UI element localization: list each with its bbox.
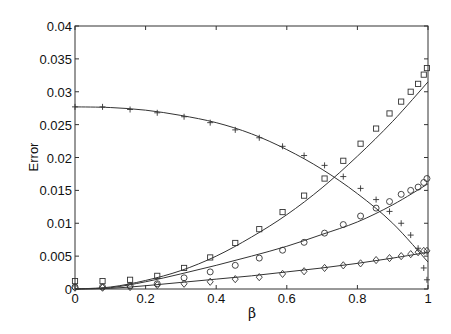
plot-area [75, 26, 428, 289]
y-tick-label: 0.005 [39, 249, 72, 264]
y-tick-label: 0.03 [47, 85, 72, 100]
y-tick-label: 0 [65, 282, 72, 297]
error-vs-beta-chart: 00.20.40.60.81 00.0050.010.0150.020.0250… [0, 0, 451, 334]
y-axis-label: Error [26, 142, 41, 172]
x-tick-label: 1 [424, 291, 431, 306]
y-tick-label: 0.025 [39, 118, 72, 133]
y-tick-label: 0.015 [39, 183, 72, 198]
y-tick-label: 0.04 [47, 19, 72, 34]
x-tick-label: 0.6 [278, 291, 296, 306]
y-tick-label: 0.02 [47, 151, 72, 166]
x-tick-label: 0 [71, 291, 78, 306]
y-tick-label: 0.035 [39, 52, 72, 67]
y-tick-label: 0.01 [47, 216, 72, 231]
x-tick-label: 0.4 [207, 291, 225, 306]
x-axis-label: β [248, 305, 256, 321]
x-tick-label: 0.8 [348, 291, 366, 306]
x-tick-label: 0.2 [137, 291, 155, 306]
